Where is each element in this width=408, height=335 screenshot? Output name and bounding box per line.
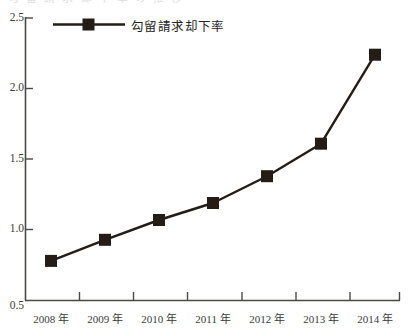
data-point-marker — [45, 255, 57, 267]
y-tick-label-2-0: 2.0 — [0, 81, 24, 93]
x-tick-label-2009: 2009 年 — [74, 310, 136, 326]
x-tick-label-2014: 2014 年 — [344, 310, 406, 326]
y-tick-label-1-5: 1.5 — [0, 152, 24, 164]
y-axis-ticks — [26, 18, 34, 230]
series-markers-kouryu-kyakkaritsu — [45, 49, 381, 267]
series-line-kouryu-kyakkaritsu — [51, 55, 375, 261]
y-tick-label-2-5: 2.5 — [0, 11, 24, 23]
chart-screenshot: 勾 留 請 求 却 下 率 の 推 移 — [0, 0, 408, 335]
data-point-marker — [315, 138, 327, 150]
x-tick-label-2010: 2010 年 — [128, 310, 190, 326]
data-point-marker — [261, 170, 273, 182]
y-tick-label-1-0: 1.0 — [0, 222, 24, 234]
x-tick-label-2011: 2011 年 — [182, 310, 244, 326]
data-point-marker — [153, 214, 165, 226]
legend-sample — [53, 19, 125, 31]
x-tick-label-2013: 2013 年 — [290, 310, 352, 326]
legend-entry-label: 勾留請求却下率 — [131, 16, 225, 35]
x-axis-ticks — [80, 292, 400, 301]
data-point-marker — [99, 234, 111, 246]
data-point-marker — [369, 49, 381, 61]
x-tick-label-2008: 2008 年 — [20, 310, 82, 326]
line-chart-canvas — [0, 0, 408, 335]
x-tick-label-2012: 2012 年 — [236, 310, 298, 326]
data-point-marker — [207, 197, 219, 209]
legend-sample-square-marker — [83, 19, 95, 31]
